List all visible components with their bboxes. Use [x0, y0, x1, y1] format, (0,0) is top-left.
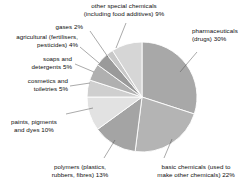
slice-label-basic-chemicals: basic chemicals (used to make other chem…	[142, 163, 250, 178]
slice-label-polymers: polymers (plastics, rubbers, fibres) 13%	[36, 163, 124, 178]
slice-label-pharmaceuticals: pharmaceuticals (drugs) 30%	[192, 27, 250, 42]
leader-line-gases	[90, 31, 108, 57]
slice-label-paints-pigments-dyes: paints, pigments and dyes 10%	[2, 118, 66, 133]
slice-label-agricultural: agricultural (fertilisers, pesticides) 4…	[2, 33, 78, 48]
pie-chart: other special chemicals (including food …	[0, 0, 250, 190]
slice-label-other-special-chemicals: other special chemicals (including food …	[66, 2, 182, 17]
leader-line-other-special	[116, 23, 126, 48]
slice-label-soaps-detergents: soaps and detergents 5%	[12, 55, 72, 70]
leader-line-cosmetics	[70, 83, 90, 86]
pie-slices	[87, 42, 197, 152]
leader-line-agricultural	[80, 47, 99, 63]
leader-line-polymers	[104, 140, 115, 158]
slice-label-cosmetics-toiletries: cosmetics and toiletries 5%	[6, 77, 68, 92]
leader-line-soaps	[75, 64, 94, 72]
slice-label-gases: gases 2%	[35, 23, 83, 31]
